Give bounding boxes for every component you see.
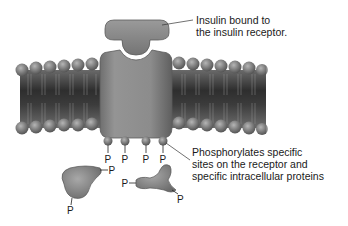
phosphate-label: P	[177, 194, 184, 205]
insulin-receptor-diagram: P P P P P P P P	[0, 0, 348, 226]
phosphorylation-leader-line	[166, 143, 190, 160]
intracellular-protein-2	[129, 165, 178, 194]
phosphate-label: P	[109, 165, 116, 176]
insulin-receptor	[100, 50, 172, 146]
insulin-label: Insulin bound to the insulin receptor.	[196, 14, 287, 38]
insulin-label-line1: Insulin bound to	[196, 14, 287, 26]
receptor-phosphates	[108, 145, 163, 153]
phosphate-label: P	[67, 205, 74, 216]
phosphate-label: P	[105, 154, 112, 165]
phosphorylation-label-line1: Phosphorylates specific	[192, 146, 324, 158]
phosphorylation-label: Phosphorylates specific sites on the rec…	[192, 146, 324, 182]
phosphorylation-label-line3: specific intracellular proteins	[192, 170, 324, 182]
phosphorylation-label-line2: sites on the receptor and	[192, 158, 324, 170]
intracellular-protein-1	[62, 166, 108, 205]
phosphate-label: P	[122, 178, 129, 189]
insulin-label-line2: the insulin receptor.	[196, 26, 287, 38]
phosphate-label: P	[143, 154, 150, 165]
phosphate-label: P	[122, 154, 129, 165]
phosphate-label: P	[160, 154, 167, 165]
insulin	[105, 20, 169, 55]
